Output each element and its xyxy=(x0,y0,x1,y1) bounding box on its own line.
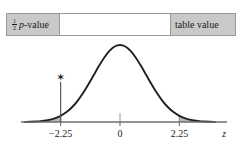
tick-label-pos225: 2.25 xyxy=(171,128,189,139)
x-axis-label: z xyxy=(221,129,226,139)
table-value-cell: table value xyxy=(171,14,235,35)
half-p-value-cell: 1 2 p -value xyxy=(7,14,59,35)
normal-distribution-chart: −2.25 0 2.25 z ✶ xyxy=(0,36,242,149)
blank-middle-cell xyxy=(59,14,171,35)
normal-curve xyxy=(25,45,215,122)
tick-label-neg225: −2.25 xyxy=(49,128,72,139)
star-marker: ✶ xyxy=(56,71,65,84)
tick-guide-lines xyxy=(61,113,180,122)
chart-svg: −2.25 0 2.25 z ✶ xyxy=(0,36,242,149)
figure-root: 1 2 p -value table value −2.25 xyxy=(0,0,242,149)
tick-label-zero: 0 xyxy=(118,128,123,139)
fraction-denominator: 2 xyxy=(12,24,17,31)
p-value-suffix: -value xyxy=(24,19,49,30)
one-half-fraction: 1 2 xyxy=(12,18,17,31)
annotation-bar: 1 2 p -value table value xyxy=(6,13,236,36)
